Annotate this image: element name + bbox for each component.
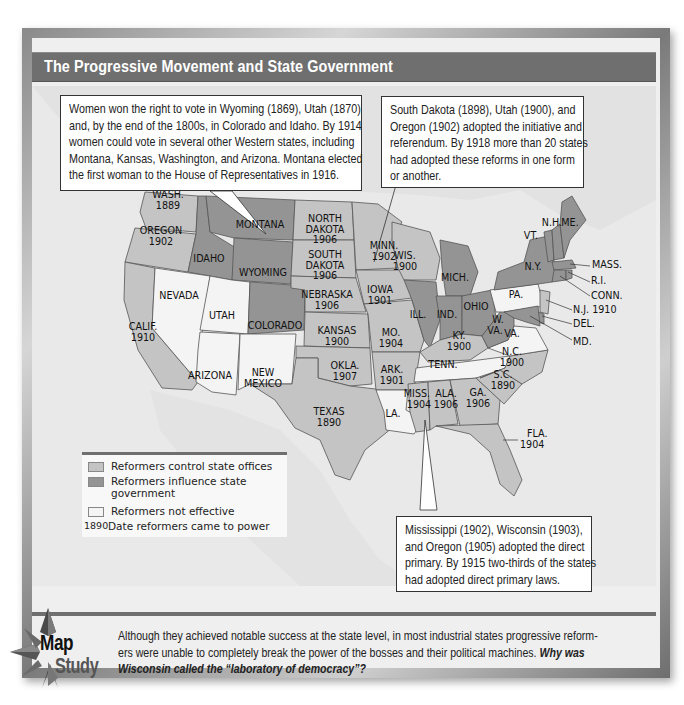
state-fla [436, 424, 522, 496]
map-study-label-study: Study [55, 653, 98, 679]
svg-text:OHIO: OHIO [463, 301, 489, 312]
svg-text:NORTH: NORTH [308, 213, 342, 224]
map-study-question-part2: Wisconsin called the “laboratory of demo… [118, 662, 366, 676]
map-title: The Progressive Movement and State Gover… [44, 58, 393, 76]
svg-text:NEBRASKA: NEBRASKA [301, 289, 353, 300]
svg-text:VT.: VT. [524, 230, 538, 241]
svg-text:1907: 1907 [333, 371, 357, 382]
callout-line: Montana, Kansas, Washington, and Arizona… [69, 151, 319, 168]
suffrage-callout: Women won the right to vote in Wyoming (… [60, 95, 362, 191]
svg-text:ARK.: ARK. [381, 364, 404, 375]
callout-line: Mississippi (1902), Wisconsin (1903), [405, 522, 562, 539]
svg-text:ME.: ME. [561, 217, 578, 228]
map-legend: Reformers control state offices Reformer… [82, 452, 287, 537]
map-study-line-1: Although they achieved notable success a… [118, 628, 548, 645]
legend-item-date: 1890 Date reformers came to power [84, 520, 270, 532]
svg-text:CALIF.: CALIF. [129, 321, 157, 332]
svg-text:LA.: LA. [385, 408, 400, 419]
svg-text:MEXICO: MEXICO [244, 378, 282, 389]
svg-text:ILL.: ILL. [410, 309, 427, 320]
svg-text:1890: 1890 [317, 417, 341, 428]
map-study-line-3: Wisconsin called the “laboratory of demo… [118, 661, 548, 678]
svg-text:1889: 1889 [156, 200, 180, 211]
map-study-line-2-text: ers were unable to completely break the … [118, 646, 539, 660]
svg-text:1890: 1890 [491, 380, 515, 391]
state-nj [540, 290, 550, 314]
state-ri [566, 270, 572, 280]
svg-text:N.C.: N.C. [502, 346, 522, 357]
callout-line: had adopted these reforms in one form [390, 152, 553, 169]
callout-line: Oregon (1902) adopted the initiative and [390, 119, 553, 136]
state-conn [552, 270, 566, 282]
primary-pointer [420, 420, 437, 510]
primary-callout: Mississippi (1902), Wisconsin (1903), an… [396, 516, 592, 592]
svg-text:1910: 1910 [131, 332, 155, 343]
svg-text:UTAH: UTAH [209, 310, 235, 321]
state-arizona [196, 332, 240, 395]
legend-label: Date reformers came to power [108, 520, 270, 532]
svg-text:1900: 1900 [447, 341, 471, 352]
svg-text:PA.: PA. [509, 289, 524, 300]
svg-text:IND.: IND. [437, 309, 457, 320]
svg-text:COLORADO: COLORADO [248, 320, 303, 331]
svg-text:IOWA: IOWA [367, 284, 393, 295]
svg-text:MASS.: MASS. [592, 259, 622, 270]
svg-text:N.J. 1910: N.J. 1910 [573, 304, 617, 315]
svg-text:1902: 1902 [149, 236, 173, 247]
svg-text:FLA.: FLA. [527, 428, 548, 439]
svg-text:W.: W. [492, 314, 503, 325]
svg-text:1906: 1906 [313, 234, 337, 245]
svg-text:WYOMING: WYOMING [239, 267, 287, 278]
swatch-not-effective [88, 507, 104, 517]
legend-label: government [111, 487, 246, 499]
svg-text:MISS.: MISS. [404, 388, 430, 399]
legend-item-not-effective: Reformers not effective [88, 505, 235, 517]
callout-line: women could vote in several other Wester… [69, 134, 319, 151]
svg-text:N.Y.: N.Y. [524, 261, 541, 272]
state-mich [440, 240, 478, 296]
svg-text:TENN.: TENN. [427, 359, 457, 370]
svg-text:KY.: KY. [453, 330, 466, 341]
legend-item-influence: Reformers influence state government [88, 475, 246, 499]
legend-label: Reformers control state offices [111, 460, 272, 472]
map-study-question-part1: Why was [539, 646, 584, 660]
callout-line: South Dakota (1898), Utah (1900), and [390, 102, 553, 119]
svg-text:1900: 1900 [325, 336, 349, 347]
svg-text:1904: 1904 [379, 338, 403, 349]
svg-text:1904: 1904 [520, 439, 544, 450]
callout-line: referendum. By 1918 more than 20 states [390, 135, 553, 152]
svg-text:MICH.: MICH. [441, 272, 469, 283]
callout-line: had adopted direct primary laws. [405, 572, 562, 589]
swatch-influence [88, 477, 104, 487]
svg-text:OREGON: OREGON [140, 225, 182, 236]
svg-text:CONN.: CONN. [591, 290, 623, 301]
svg-text:1904: 1904 [407, 399, 431, 410]
svg-text:VA.: VA. [487, 325, 502, 336]
svg-text:MD.: MD. [573, 336, 592, 347]
svg-text:WIS.: WIS. [394, 250, 415, 261]
map-study-line-2: ers were unable to completely break the … [118, 645, 548, 662]
callout-line: or another. [390, 168, 553, 185]
svg-text:1901: 1901 [380, 375, 404, 386]
legend-item-control: Reformers control state offices [88, 460, 272, 472]
title-bar: The Progressive Movement and State Gover… [32, 52, 656, 82]
svg-text:1906: 1906 [466, 398, 490, 409]
svg-text:1906: 1906 [315, 300, 339, 311]
svg-text:1900: 1900 [393, 261, 417, 272]
svg-text:SOUTH: SOUTH [308, 249, 342, 260]
svg-text:KANSAS: KANSAS [318, 325, 357, 336]
svg-text:NEVADA: NEVADA [159, 290, 199, 301]
initiative-callout: South Dakota (1898), Utah (1900), and Or… [381, 96, 584, 188]
callout-line: and Oregon (1905) adopted the direct [405, 539, 562, 556]
map-study-text: Although they achieved notable success a… [118, 628, 618, 678]
svg-text:ALA.: ALA. [435, 388, 457, 399]
section-divider [32, 612, 656, 616]
callout-line: the first woman to the House of Represen… [69, 167, 319, 184]
callout-line: Women won the right to vote in Wyoming (… [69, 101, 319, 118]
callout-line: primary. By 1915 two-thirds of the state… [405, 555, 562, 572]
svg-text:1906: 1906 [434, 399, 458, 410]
svg-text:R.I.: R.I. [591, 275, 606, 286]
legend-year: 1890 [84, 520, 104, 531]
svg-text:ARIZONA: ARIZONA [188, 370, 232, 381]
swatch-control [88, 462, 104, 472]
